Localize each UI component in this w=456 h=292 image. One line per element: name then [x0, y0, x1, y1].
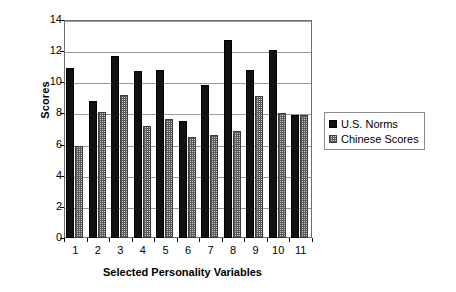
bar-us-norms [291, 115, 299, 238]
x-axis-tick-label: 1 [64, 244, 86, 256]
x-axis-tick-mark [177, 238, 178, 242]
x-axis-title: Selected Personality Variables [50, 266, 315, 278]
bar-chinese-scores [143, 126, 151, 238]
bar-chinese-scores [120, 95, 128, 238]
bar-us-norms [134, 71, 142, 238]
bar-chinese-scores [188, 137, 196, 238]
hatched-square-icon [329, 135, 337, 143]
bar-us-norms [111, 56, 119, 238]
x-axis-tick-mark [289, 238, 290, 242]
y-axis-tick-label: 10 [36, 76, 62, 87]
bar-group [267, 20, 290, 238]
x-axis-tick-label: 7 [200, 244, 222, 256]
bar-group [154, 20, 177, 238]
bar-us-norms [66, 68, 74, 238]
x-axis-tick-mark [64, 238, 65, 242]
x-axis-tick-mark [154, 238, 155, 242]
bar-chinese-scores [165, 119, 173, 238]
x-axis-tick-label: 4 [132, 244, 154, 256]
bar-us-norms [246, 70, 254, 238]
filled-square-icon [329, 120, 337, 128]
bars-layer [64, 20, 312, 238]
x-axis-tick-mark [222, 238, 223, 242]
y-axis-tick-label: 6 [36, 139, 62, 150]
bar-us-norms [156, 70, 164, 238]
bar-us-norms [201, 85, 209, 238]
bar-us-norms [179, 121, 187, 238]
bar-chinese-scores [300, 115, 308, 238]
bar-group [199, 20, 222, 238]
y-axis-tick-mark [60, 113, 64, 114]
legend-label-us-norms: U.S. Norms [341, 118, 398, 130]
x-axis-tick-mark [132, 238, 133, 242]
bar-group [289, 20, 312, 238]
chart-legend: U.S. Norms Chinese Scores [324, 112, 425, 150]
x-axis-tick-mark [267, 238, 268, 242]
bar-us-norms [269, 50, 277, 238]
x-axis-tick-label: 6 [177, 244, 199, 256]
bar-group [177, 20, 200, 238]
x-axis-tick-mark [109, 238, 110, 242]
bar-chinese-scores [75, 146, 83, 238]
x-axis-tick-mark [87, 238, 88, 242]
x-axis-tick-mark [199, 238, 200, 242]
bar-us-norms [224, 40, 232, 238]
bar-chinese-scores [233, 131, 241, 238]
y-axis-tick-label: 4 [36, 170, 62, 181]
y-axis-tick-label: 2 [36, 201, 62, 212]
y-axis-tick-labels: 02468101214 [32, 20, 62, 238]
legend-label-chinese-scores: Chinese Scores [341, 133, 419, 145]
x-axis-tick-mark [244, 238, 245, 242]
bar-chinese-scores [255, 96, 263, 238]
legend-item-us-norms: U.S. Norms [329, 116, 419, 131]
bar-group [244, 20, 267, 238]
y-axis-tick-label: 0 [36, 232, 62, 243]
bar-chinese-scores [210, 135, 218, 238]
x-axis-tick-mark [312, 238, 313, 242]
x-axis-tick-label: 3 [109, 244, 131, 256]
y-axis-tick-mark [60, 145, 64, 146]
y-axis-tick-mark [60, 238, 64, 239]
bar-group [222, 20, 245, 238]
bar-group [132, 20, 155, 238]
bar-group [109, 20, 132, 238]
y-axis-tick-label: 12 [36, 45, 62, 56]
x-axis-tick-label: 10 [267, 244, 289, 256]
y-axis-tick-label: 14 [36, 14, 62, 25]
y-axis-tick-label: 8 [36, 107, 62, 118]
y-axis-tick-mark [60, 176, 64, 177]
legend-item-chinese-scores: Chinese Scores [329, 131, 419, 146]
bar-chinese-scores [278, 113, 286, 238]
x-axis-tick-label: 5 [154, 244, 176, 256]
bar-chart: Scores 02468101214 1234567891011 Selecte… [0, 0, 456, 292]
bar-group [64, 20, 87, 238]
x-axis-tick-labels: 1234567891011 [64, 238, 312, 262]
x-axis-tick-label: 9 [245, 244, 267, 256]
y-axis-tick-mark [60, 207, 64, 208]
x-axis-tick-label: 8 [222, 244, 244, 256]
x-axis-tick-label: 2 [87, 244, 109, 256]
x-axis-tick-label: 11 [290, 244, 312, 256]
y-axis-tick-mark [60, 51, 64, 52]
y-axis-tick-mark [60, 20, 64, 21]
y-axis-tick-mark [60, 82, 64, 83]
bar-chinese-scores [98, 112, 106, 238]
bar-us-norms [89, 101, 97, 238]
bar-group [87, 20, 110, 238]
